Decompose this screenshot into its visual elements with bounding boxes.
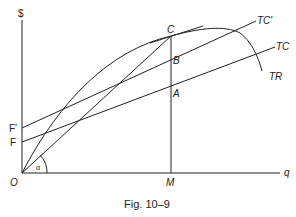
angle-arc xyxy=(40,155,47,173)
tr-label: TR xyxy=(269,71,282,82)
ray-oc xyxy=(22,36,171,173)
diagram-canvas: $ q O F′ F C B A M TC′ TC TR α Fig. 10–9 xyxy=(0,0,296,217)
f-prime-label: F′ xyxy=(9,123,17,134)
origin-label: O xyxy=(10,177,18,188)
y-axis-label: $ xyxy=(18,8,24,19)
tc-line xyxy=(22,47,275,142)
x-axis-label: q xyxy=(284,167,290,178)
tr-curve xyxy=(22,28,262,173)
tangent-at-c xyxy=(150,26,203,43)
figure-caption: Fig. 10–9 xyxy=(124,198,170,210)
angle-alpha-label: α xyxy=(36,164,40,171)
f-label: F xyxy=(10,137,16,148)
point-b-label: B xyxy=(173,55,180,66)
point-m-label: M xyxy=(166,177,175,188)
tc-prime-line xyxy=(22,21,256,128)
tc-prime-label: TC′ xyxy=(257,15,273,26)
point-c-label: C xyxy=(167,24,175,35)
tc-label: TC xyxy=(276,41,290,52)
point-a-label: A xyxy=(172,88,180,99)
